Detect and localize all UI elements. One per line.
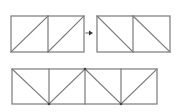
panel-diagonal [97, 16, 133, 52]
arrow-head [89, 31, 93, 36]
truss-diagram [0, 0, 184, 112]
panel-diagonal [11, 16, 48, 52]
truss-joint [120, 103, 123, 106]
truss-diagonal [49, 69, 85, 104]
truss-joint [84, 68, 87, 71]
transform-arrow-icon [86, 31, 93, 36]
panel-diagonal [133, 16, 170, 52]
truss-diagonal [12, 69, 49, 104]
top-left-panel-pair [11, 16, 84, 52]
bottom-warren-truss [12, 68, 157, 106]
truss-diagonal [121, 69, 157, 104]
panel-diagonal [48, 16, 84, 52]
truss-joint [48, 103, 51, 106]
truss-diagonal [85, 69, 121, 104]
top-right-panel-pair [97, 16, 170, 52]
